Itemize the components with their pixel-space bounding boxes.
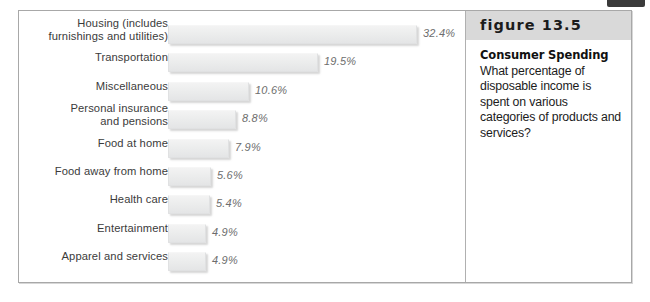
bar-category-label: Miscellaneous: [28, 80, 168, 93]
bar-row: Personal insuranceand pensions8.8%: [19, 108, 465, 134]
bar-value-label: 5.6%: [217, 169, 243, 181]
bar-category-label: Housing (includesfurnishings and utiliti…: [28, 17, 168, 42]
bar-value-label: 8.8%: [242, 112, 268, 124]
bar-category-label-line1: Entertainment: [28, 222, 168, 235]
bar-track: [168, 195, 210, 214]
bar-fill: [168, 82, 249, 101]
bar-row: Apparel and services4.9%: [19, 250, 465, 276]
bar-category-label-line1: Personal insurance: [28, 102, 168, 115]
bar-track: [168, 224, 206, 243]
figure-caption-heading: Consumer Spending: [480, 48, 608, 62]
bar-category-label-line1: Housing (includes: [28, 17, 168, 30]
bar-row: Entertainment4.9%: [19, 222, 465, 248]
bar-category-label-line1: Health care: [28, 193, 168, 206]
bar-value-label: 4.9%: [212, 226, 238, 238]
bar-chart: Housing (includesfurnishings and utiliti…: [19, 11, 465, 282]
bar-category-label-line1: Apparel and services: [28, 250, 168, 263]
bar-fill: [168, 224, 206, 243]
bar-category-label: Health care: [28, 193, 168, 206]
bar-fill: [168, 252, 206, 271]
bar-fill: [168, 53, 318, 72]
figure-number-label: figure 13.5: [480, 17, 582, 33]
bar-track: [168, 25, 417, 44]
bar-value-label: 4.9%: [212, 254, 238, 266]
bar-fill: [168, 195, 210, 214]
bar-category-label: Personal insuranceand pensions: [28, 102, 168, 127]
bar-track: [168, 82, 249, 101]
bar-fill: [168, 139, 229, 158]
bar-category-label-line1: Miscellaneous: [28, 80, 168, 93]
bar-fill: [168, 110, 236, 129]
bar-category-label: Food at home: [28, 137, 168, 150]
bar-track: [168, 252, 206, 271]
bar-category-label-line1: Food away from home: [28, 165, 168, 178]
figure-caption-panel: figure 13.5 Consumer Spending What perce…: [466, 11, 631, 282]
bar-track: [168, 53, 318, 72]
bar-track: [168, 167, 211, 186]
bar-fill: [168, 167, 211, 186]
figure-frame: Housing (includesfurnishings and utiliti…: [18, 10, 632, 283]
figure-caption-body: What percentage of disposable income is …: [480, 64, 622, 141]
bar-row: Food at home7.9%: [19, 137, 465, 163]
page-edge-artifact: [607, 0, 645, 7]
bar-category-label: Entertainment: [28, 222, 168, 235]
bar-value-label: 5.4%: [216, 197, 242, 209]
bar-row: Food away from home5.6%: [19, 165, 465, 191]
bar-category-label: Transportation: [28, 51, 168, 64]
bar-row: Housing (includesfurnishings and utiliti…: [19, 23, 465, 49]
bar-value-label: 7.9%: [235, 141, 261, 153]
bar-category-label-line1: Food at home: [28, 137, 168, 150]
bar-row: Transportation19.5%: [19, 51, 465, 77]
bar-value-label: 10.6%: [255, 84, 287, 96]
bar-category-label-line2: and pensions: [28, 115, 168, 128]
bar-fill: [168, 25, 417, 44]
bar-value-label: 19.5%: [324, 55, 356, 67]
bar-row: Health care5.4%: [19, 193, 465, 219]
bar-value-label: 32.4%: [423, 27, 455, 39]
bar-track: [168, 110, 236, 129]
bar-track: [168, 139, 229, 158]
bar-category-label: Food away from home: [28, 165, 168, 178]
bar-category-label-line1: Transportation: [28, 51, 168, 64]
bar-category-label-line2: furnishings and utilities): [28, 30, 168, 43]
bar-category-label: Apparel and services: [28, 250, 168, 263]
